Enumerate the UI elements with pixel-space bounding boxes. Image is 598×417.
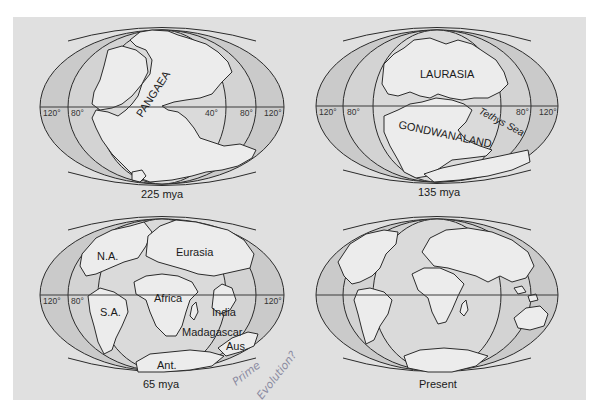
map-225mya: 120° 80° 40° 80° 120° PANGAEA 225 mya — [40, 28, 284, 201]
na-label: N.A. — [97, 250, 118, 262]
eurasia-label: Eurasia — [176, 246, 214, 258]
map-caption: 65 mya — [143, 378, 180, 390]
map-caption: 135 mya — [418, 186, 461, 198]
degree-label: 80° — [71, 108, 84, 118]
map-135mya: 120° 80° 80° 120° LAURASIA GONDWANALAND … — [316, 28, 558, 199]
handwritten-note-line2: Evolution? — [254, 349, 300, 402]
degree-label: 120° — [264, 108, 282, 118]
aus-label: Aus. — [226, 340, 248, 352]
degree-label: 120° — [264, 296, 282, 306]
degree-label: 80° — [347, 107, 360, 117]
map-caption: Present — [419, 378, 457, 390]
degree-label: 120° — [539, 107, 557, 117]
map-present: Present — [316, 217, 558, 391]
madagascar-label: Madagascar — [182, 326, 243, 338]
laurasia-label: LAURASIA — [420, 68, 475, 80]
degree-label: 80° — [71, 296, 84, 306]
degree-label: 120° — [43, 296, 61, 306]
degree-label: 40° — [205, 108, 218, 118]
india-label: India — [212, 306, 237, 318]
degree-label: 120° — [319, 107, 337, 117]
africa-label: Africa — [154, 292, 183, 304]
handwritten-annotation: Prime Evolution? — [230, 349, 300, 402]
ant-label: Ant. — [157, 359, 177, 371]
sa-label: S.A. — [100, 306, 121, 318]
degree-label: 120° — [43, 108, 61, 118]
continental-drift-figure: 120° 80° 40° 80° 120° PANGAEA 225 mya 12… — [0, 0, 598, 417]
map-caption: 225 mya — [141, 188, 184, 200]
degree-label: 80° — [240, 108, 253, 118]
degree-label: 80° — [516, 107, 529, 117]
